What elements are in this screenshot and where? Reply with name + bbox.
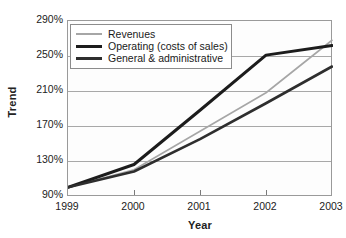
legend-line-icon xyxy=(76,40,102,52)
y-tick-label: 170% xyxy=(23,118,63,130)
y-tick-label: 130% xyxy=(23,153,63,165)
legend-item-label: General & administrative xyxy=(108,52,223,64)
x-tick-label: 2001 xyxy=(176,200,222,212)
x-tick-label: 2000 xyxy=(110,200,156,212)
legend-item: Operating (costs of sales) xyxy=(76,40,226,52)
series-line xyxy=(68,67,332,188)
x-tick-label: 2002 xyxy=(242,200,288,212)
y-tick-label: 290% xyxy=(23,13,63,25)
y-axis-title: Trend xyxy=(6,66,18,138)
x-tick-label: 2003 xyxy=(308,200,346,212)
y-tick-label: 210% xyxy=(23,83,63,95)
legend-line-icon xyxy=(76,28,102,40)
x-axis-title: Year xyxy=(67,219,333,231)
legend-line-icon xyxy=(76,52,102,64)
legend-item: General & administrative xyxy=(76,52,226,64)
legend-item-label: Revenues xyxy=(108,28,155,40)
chart-legend: RevenuesOperating (costs of sales)Genera… xyxy=(70,24,232,69)
legend-item: Revenues xyxy=(76,28,226,40)
chart-figure: Trend Year 90%130%170%210%250%290% 19992… xyxy=(0,0,346,238)
y-tick-label: 250% xyxy=(23,48,63,60)
legend-item-label: Operating (costs of sales) xyxy=(108,40,228,52)
y-tick-label: 90% xyxy=(23,188,63,200)
x-tick-label: 1999 xyxy=(44,200,90,212)
